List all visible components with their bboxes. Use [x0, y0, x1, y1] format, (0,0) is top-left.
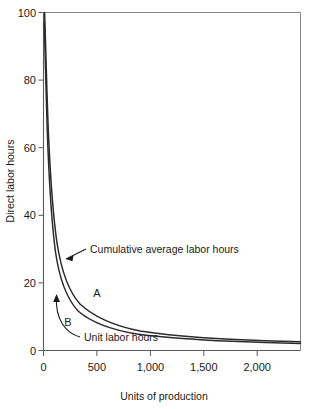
annotation-cumulative-average-leader [66, 249, 86, 261]
y-tick-label-0: 0 [30, 345, 36, 357]
x-axis-title: Units of production [120, 390, 208, 402]
arrow-head-unit-labor [53, 294, 60, 302]
annotation-unit-labor-label: Unit labor hours [84, 331, 158, 343]
y-axis-ticks [39, 13, 44, 351]
y-axis-title: Direct labor hours [4, 140, 16, 223]
y-tick-label-60: 60 [24, 142, 36, 154]
series-label-b: B [64, 316, 71, 328]
curve-a-cumulative-average [45, 13, 301, 342]
curve-b-unit-labor [44, 22, 300, 343]
x-tick-label-2000: 2,000 [243, 361, 271, 373]
x-tick-label-500: 500 [88, 361, 106, 373]
series-label-a: A [93, 287, 101, 299]
y-tick-label-20: 20 [24, 277, 36, 289]
y-tick-label-80: 80 [24, 74, 36, 86]
x-tick-label-0: 0 [40, 361, 46, 373]
x-axis-ticks [44, 351, 258, 357]
x-tick-label-1500: 1,500 [190, 361, 218, 373]
plot-frame [44, 13, 301, 351]
y-tick-label-100: 100 [18, 7, 36, 19]
axis-lines [44, 13, 301, 351]
chart-page: 0 20 40 60 80 100 0 500 1,000 1,500 2,00… [0, 0, 314, 409]
learning-curve-chart: 0 20 40 60 80 100 0 500 1,000 1,500 2,00… [0, 0, 314, 409]
annotation-cumulative-average-label: Cumulative average labor hours [90, 243, 239, 255]
x-tick-label-1000: 1,000 [137, 361, 165, 373]
y-tick-label-40: 40 [24, 209, 36, 221]
